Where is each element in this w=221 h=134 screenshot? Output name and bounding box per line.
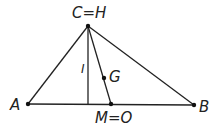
side-cb xyxy=(88,26,194,105)
side-ca xyxy=(28,26,88,104)
label-g: G xyxy=(109,68,121,86)
triangle-diagram: C=H A B M=O G I xyxy=(0,0,221,134)
label-b: B xyxy=(199,98,209,116)
point-c xyxy=(86,24,90,28)
point-g xyxy=(102,76,106,80)
label-c: C=H xyxy=(72,4,106,22)
label-a: A xyxy=(9,96,20,114)
median-line xyxy=(88,26,111,104)
point-a xyxy=(26,102,30,106)
point-b xyxy=(192,103,196,107)
point-m xyxy=(109,102,113,106)
label-m: M=O xyxy=(95,109,133,127)
label-altitude: I xyxy=(81,62,85,76)
